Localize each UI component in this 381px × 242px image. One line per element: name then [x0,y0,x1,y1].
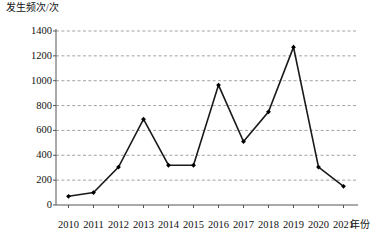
data-point-marker [191,163,196,168]
data-markers [66,45,346,199]
y-tick-label: 600 [18,125,52,136]
x-tick-label: 2012 [108,219,129,231]
y-tick-label: 1200 [18,51,52,62]
data-line [69,47,344,196]
x-tick-label: 2017 [233,219,254,231]
x-tick-label: 2016 [208,219,229,231]
data-point-marker [291,45,296,50]
chart-canvas [56,31,356,205]
x-tick-label: 2015 [183,219,204,231]
x-axis-tick-labels: 2010201120122013201420152016201720182019… [56,219,356,233]
y-tick-label: 0 [18,200,52,211]
y-tick-label: 200 [18,175,52,186]
y-tick-label: 400 [18,150,52,161]
y-axis-tick-labels: 0200400600800100012001400 [14,0,52,242]
y-tick-label: 1000 [18,76,52,87]
data-point-marker [66,194,71,199]
y-tick-label: 1400 [18,26,52,37]
x-tick-label: 2010 [58,219,79,231]
x-axis-title: 年份 [350,219,370,231]
gridlines [56,31,356,180]
plot-area [56,31,356,205]
series-line [69,47,344,196]
x-tick-label: 2019 [283,219,304,231]
x-tick-label: 2014 [158,219,179,231]
x-tick-label: 2020 [308,219,329,231]
x-tick-label: 2013 [133,219,154,231]
x-tick-label: 2011 [83,219,104,231]
chart-figure: 发生频次/次 0200400600800100012001400 2010201… [0,0,381,242]
data-point-marker [216,83,221,88]
x-tick-label: 2018 [258,219,279,231]
y-tick-label: 800 [18,101,52,112]
